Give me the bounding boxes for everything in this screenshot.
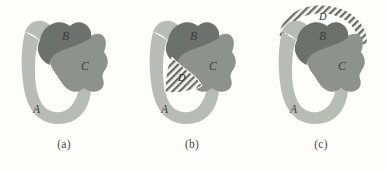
region-label-b: B [62, 30, 69, 42]
region-label-b: B [190, 30, 197, 42]
region-label-d: D [177, 72, 186, 83]
region-label-c: C [81, 60, 89, 72]
panel-c-diagram: A B C D [257, 0, 385, 150]
figure-container: A B C (a) A B C D (b) [0, 0, 386, 171]
region-label-a: A [32, 103, 41, 115]
region-label-a: A [160, 103, 169, 115]
panel-b: A B C D (b) [128, 0, 256, 171]
panel-c: A B C D (c) [257, 0, 385, 171]
region-label-a: A [289, 103, 298, 115]
panel-a-caption: (a) [0, 138, 128, 150]
panel-b-diagram: A B C D [128, 0, 256, 150]
panel-b-caption: (b) [128, 138, 256, 150]
region-label-d: D [318, 11, 327, 22]
region-label-b: B [319, 30, 326, 42]
panel-a: A B C (a) [0, 0, 128, 171]
region-label-c: C [338, 60, 346, 72]
panel-c-caption: (c) [257, 138, 385, 150]
panel-a-diagram: A B C [0, 0, 128, 150]
region-label-c: C [209, 60, 217, 72]
